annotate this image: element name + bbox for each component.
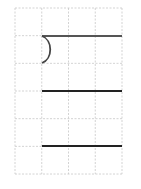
arc-stroke	[42, 36, 50, 63]
stroke-practice-grid	[0, 0, 141, 189]
